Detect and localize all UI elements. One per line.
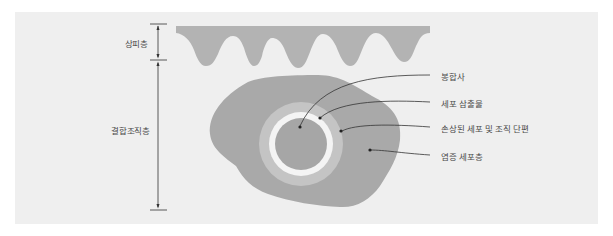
arrow-up-icon	[157, 62, 160, 67]
arrow-down-icon	[157, 54, 160, 59]
pointer-dot	[339, 129, 342, 132]
arrow-up-icon	[157, 26, 160, 31]
arrow-down-icon	[157, 204, 160, 209]
label-cell-exudate: 세포 삼출물	[441, 97, 483, 109]
pointer-dot	[368, 148, 371, 151]
label-connective-tissue: 결합조직층	[88, 124, 150, 136]
scale-bar	[150, 24, 167, 210]
label-damaged-section: 손상된 세포 및 조직 단편	[441, 122, 529, 134]
label-epidermis: 상피층	[108, 37, 148, 49]
tissue-diagram	[0, 0, 613, 236]
pointer-dot	[318, 116, 321, 119]
label-inflammatory-layer: 염증 세포층	[441, 150, 483, 162]
epidermis-layer	[176, 26, 430, 68]
label-suture: 봉합사	[441, 70, 464, 82]
pointer-dot	[298, 125, 301, 128]
